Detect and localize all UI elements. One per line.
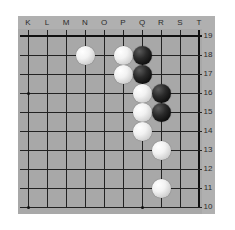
grid-line-row-13 — [20, 150, 202, 151]
grid-line-row-18 — [20, 55, 202, 56]
grid-line-row-15 — [20, 112, 202, 113]
row-label-18: 18 — [201, 50, 215, 60]
grid-line-column-S — [180, 30, 181, 207]
row-label-15: 15 — [201, 107, 215, 117]
row-label-14: 14 — [201, 126, 215, 136]
column-label-O: O — [98, 18, 110, 28]
column-label-T: T — [193, 18, 205, 28]
row-label-13: 13 — [201, 145, 215, 155]
grid-line-column-L — [47, 30, 48, 207]
stone-white-P17[interactable] — [114, 65, 133, 84]
star-point-Q10 — [141, 206, 144, 209]
stone-black-Q17[interactable] — [133, 65, 152, 84]
stone-white-Q15[interactable] — [133, 103, 152, 122]
column-label-Q: Q — [136, 18, 148, 28]
column-label-N: N — [79, 18, 91, 28]
grid-line-row-11 — [20, 188, 202, 189]
stone-white-R13[interactable] — [152, 141, 171, 160]
stone-white-Q16[interactable] — [133, 84, 152, 103]
stone-white-R11[interactable] — [152, 179, 171, 198]
grid-line-column-K — [28, 30, 29, 207]
grid-line-row-14 — [20, 131, 202, 132]
stone-white-N18[interactable] — [76, 46, 95, 65]
grid-line-column-T — [198, 30, 200, 207]
stone-black-Q18[interactable] — [133, 46, 152, 65]
grid-line-column-M — [66, 30, 67, 207]
grid-line-column-O — [104, 30, 105, 207]
column-label-R: R — [155, 18, 167, 28]
stone-black-R15[interactable] — [152, 103, 171, 122]
grid-line-row-16 — [20, 93, 202, 94]
go-board-widget[interactable]: KLMNOPQRST19181716151413121110 — [0, 0, 235, 230]
row-label-16: 16 — [201, 88, 215, 98]
column-label-K: K — [22, 18, 34, 28]
grid-line-row-17 — [20, 74, 202, 75]
star-point-K16 — [27, 92, 30, 95]
grid-line-row-12 — [20, 169, 202, 170]
grid-line-row-19 — [20, 35, 202, 37]
column-label-M: M — [60, 18, 72, 28]
row-label-19: 19 — [201, 31, 215, 41]
row-label-17: 17 — [201, 69, 215, 79]
column-label-L: L — [41, 18, 53, 28]
stone-white-Q14[interactable] — [133, 122, 152, 141]
row-label-12: 12 — [201, 164, 215, 174]
stone-black-R16[interactable] — [152, 84, 171, 103]
row-label-10: 10 — [201, 202, 215, 212]
stone-white-P18[interactable] — [114, 46, 133, 65]
column-label-P: P — [117, 18, 129, 28]
star-point-K10 — [27, 206, 30, 209]
row-label-11: 11 — [201, 183, 215, 193]
grid-line-row-10 — [20, 207, 202, 208]
column-label-S: S — [174, 18, 186, 28]
